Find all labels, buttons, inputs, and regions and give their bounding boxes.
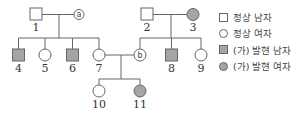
tag-b: b [137, 51, 142, 60]
individual-11-affected-female [134, 85, 146, 97]
label-3: 3 [190, 21, 197, 34]
individual-2-normal-male [141, 8, 153, 20]
legend-label: (가) 발현 여자 [233, 59, 291, 73]
legend-item-normal-male: 정상 남자 [219, 9, 291, 25]
label-10: 10 [92, 98, 106, 111]
individual-5-normal-female [39, 49, 51, 61]
individual-3-affected-female [187, 9, 199, 21]
legend: 정상 남자 정상 여자 (가) 발현 남자 (가) 발현 여자 [219, 9, 291, 74]
label-1: 1 [33, 21, 40, 34]
label-7: 7 [96, 62, 103, 75]
empty-square-icon [219, 13, 228, 22]
filled-circle-icon [219, 62, 228, 71]
individual-9-normal-female [195, 49, 207, 61]
filled-square-icon [219, 45, 228, 54]
individual-1-normal-male [30, 8, 42, 20]
label-9: 9 [198, 62, 205, 75]
individual-7-normal-female [93, 49, 105, 61]
label-2: 2 [144, 21, 151, 34]
legend-item-normal-female: 정상 여자 [219, 25, 291, 41]
label-6: 6 [69, 62, 76, 75]
legend-label: 정상 남자 [233, 10, 272, 24]
legend-label: 정상 여자 [233, 26, 272, 40]
empty-circle-icon [219, 29, 228, 38]
individual-10-normal-female [93, 85, 105, 97]
label-5: 5 [42, 62, 49, 75]
tag-a: a [77, 10, 82, 19]
label-8: 8 [168, 62, 175, 75]
legend-item-affected-female: (가) 발현 여자 [219, 58, 291, 74]
label-11: 11 [133, 98, 147, 111]
individual-4-affected-male [13, 49, 25, 61]
legend-item-affected-male: (가) 발현 남자 [219, 42, 291, 58]
individual-8-affected-male [166, 49, 178, 61]
individual-6-affected-male [67, 49, 79, 61]
label-4: 4 [15, 62, 22, 75]
legend-label: (가) 발현 남자 [233, 43, 291, 57]
